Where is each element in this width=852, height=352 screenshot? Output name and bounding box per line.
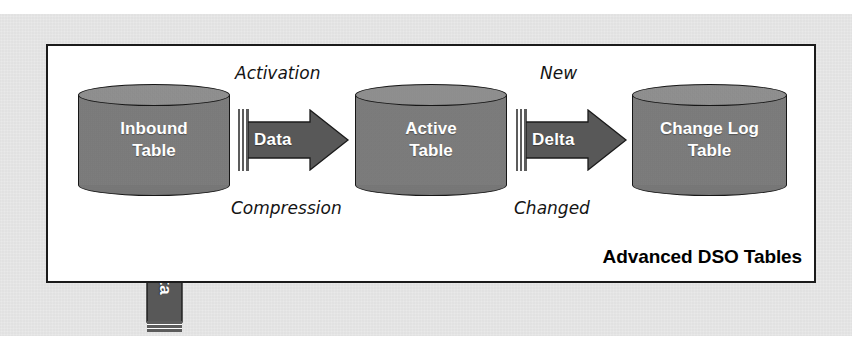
node-inbound-table: Inbound Table: [78, 84, 230, 196]
diagram-frame: Inbound Table Active Table Change Log Ta…: [46, 44, 816, 283]
node-label-active-table: Active Table: [355, 118, 507, 162]
caption-changed: Changed: [514, 198, 590, 218]
node-label-change-log-table: Change Log Table: [632, 118, 787, 162]
delta-flow-arrow: Delta: [516, 109, 628, 171]
cylinder-top-ellipse: [355, 84, 507, 106]
data-flow-label: Data: [254, 130, 292, 150]
diagram-title: Advanced DSO Tables: [603, 246, 802, 268]
cylinder-top-ellipse: [78, 84, 230, 106]
node-change-log-table: Change Log Table: [632, 84, 787, 196]
node-active-table: Active Table: [355, 84, 507, 196]
arrow-tail-stripes: [147, 321, 182, 332]
caption-compression: Compression: [231, 198, 342, 218]
caption-new: New: [540, 63, 577, 83]
caption-activation: Activation: [235, 63, 320, 83]
data-flow-arrow: Data: [238, 109, 350, 171]
delta-flow-label: Delta: [532, 130, 575, 150]
diagram-canvas: Data Inbound Table Active Table Change L…: [0, 0, 852, 352]
cylinder-top-ellipse: [632, 84, 787, 106]
node-label-inbound-table: Inbound Table: [78, 118, 230, 162]
